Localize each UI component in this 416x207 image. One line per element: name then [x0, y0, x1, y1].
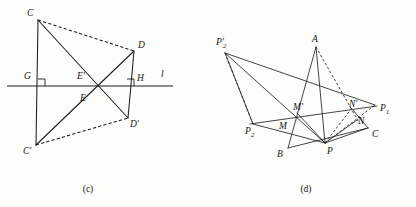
point-label-D: D	[137, 40, 145, 50]
point-label-P2: P	[244, 126, 251, 136]
segment-C-Cprime	[36, 20, 38, 145]
point-label-P1-sub: 1	[386, 108, 389, 115]
point-label-Nprime: N'	[348, 99, 358, 109]
caption-figure-d: (d)	[300, 184, 311, 195]
segment-P2prime-P2	[225, 53, 253, 124]
point-label-C: C	[372, 129, 379, 139]
point-label-P: P	[326, 146, 333, 156]
point-label-P2-group: P 2	[244, 126, 255, 138]
point-label-Dprime: D'	[129, 119, 140, 129]
point-label-P2prime-group: P' 2	[215, 37, 227, 49]
segment-D-Dprime	[128, 51, 134, 118]
point-label-P1: P	[379, 103, 386, 113]
point-label-P1-group: P 1	[379, 103, 389, 115]
point-label-P2prime-sub: 2	[223, 42, 227, 49]
segment-P2prime-P1	[225, 53, 375, 105]
segment-P-C	[325, 128, 368, 143]
segment-A-B	[288, 47, 316, 148]
figure-root: C D G H E' E C' D' l (c)	[0, 0, 416, 207]
segment-P-Mprime	[297, 113, 325, 143]
point-label-H: H	[136, 73, 145, 83]
point-label-C: C	[27, 8, 34, 18]
geometry-figure-svg: C D G H E' E C' D' l (c)	[0, 0, 416, 207]
line-label-l: l	[161, 69, 164, 79]
segment-A-P	[316, 47, 325, 143]
point-label-N: N	[357, 116, 365, 126]
point-label-E: E	[79, 93, 86, 103]
point-label-Mprime: M'	[292, 102, 304, 112]
point-label-G: G	[24, 71, 31, 81]
point-label-Cprime: C'	[23, 146, 32, 156]
caption-figure-c: (c)	[83, 184, 94, 195]
segment-A-N-dashed	[316, 47, 360, 124]
point-label-Eprime: E'	[76, 71, 86, 81]
right-angle-mark-G	[38, 79, 45, 86]
figure-d-group: P' 2 A P 1 N' N M' M P 2 B P C (d)	[215, 34, 389, 195]
point-label-M: M	[278, 121, 288, 131]
segment-P-N	[325, 120, 357, 143]
point-label-P2-sub: 2	[251, 131, 255, 138]
segment-B-C	[288, 128, 368, 148]
point-label-A: A	[311, 34, 318, 44]
point-label-B: B	[277, 149, 283, 159]
figure-c-group: C D G H E' E C' D' l (c)	[7, 8, 173, 195]
